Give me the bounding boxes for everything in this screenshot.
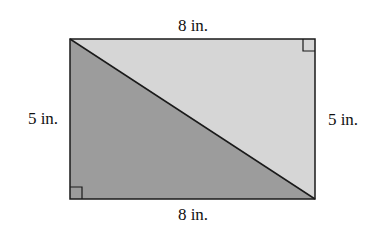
label-right: 5 in. [328, 110, 358, 129]
label-left: 5 in. [28, 109, 58, 128]
label-bottom: 8 in. [178, 205, 208, 224]
label-top: 8 in. [178, 16, 208, 35]
rectangle-diagram: 8 in. 5 in. 5 in. 8 in. [0, 0, 375, 235]
